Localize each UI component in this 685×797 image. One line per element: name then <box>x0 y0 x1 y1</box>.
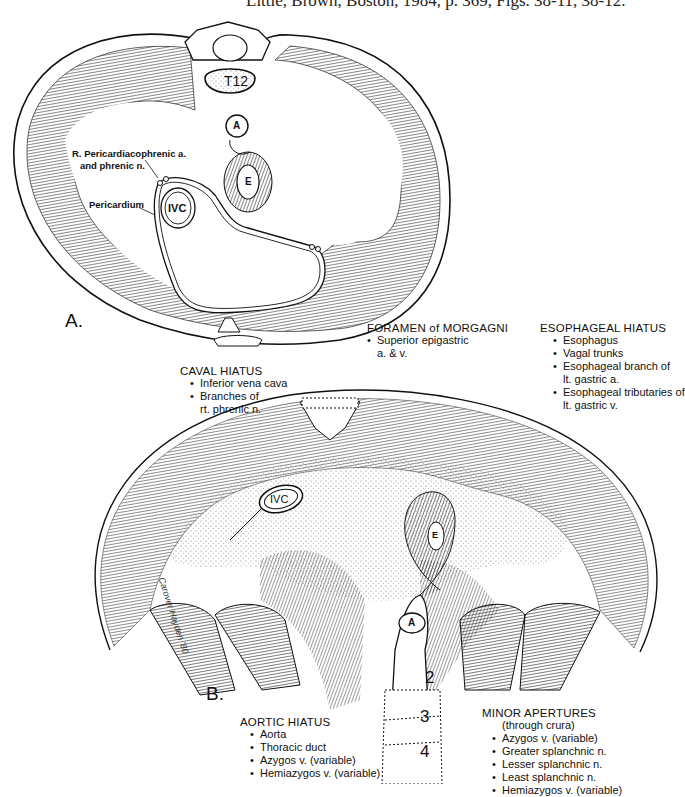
callout-item: Vagal trunks <box>553 347 685 360</box>
callout-heading: ESOPHAGEAL HIATUS <box>540 322 685 334</box>
callout-item: Azygos v. (variable) <box>250 754 380 767</box>
callout-caval-hiatus: CAVAL HIATUS Inferior vena cava Branches… <box>180 365 287 416</box>
callout-foramen-morgagni: FORAMEN of MORGAGNI Superior epigastric … <box>367 322 508 360</box>
callout-heading: CAVAL HIATUS <box>180 365 287 377</box>
figure-a-label: A. <box>65 310 83 332</box>
callout-item: Esophageal branch of <box>553 360 685 373</box>
pericardiacophrenic-label-line1: R. Pericardiacophrenic a. <box>72 148 186 160</box>
callout-item: Lesser splanchnic n. <box>492 758 622 771</box>
callout-minor-apertures: MINOR APERTURES (through crura) Azygos v… <box>482 707 622 797</box>
aorta-label-a: A <box>233 120 240 131</box>
callout-item: Aorta <box>250 728 380 741</box>
callout-item: Hemiazygos v. (variable) <box>492 784 622 797</box>
callout-item: Branches of <box>190 390 287 403</box>
callout-item: Superior epigastric <box>367 334 508 347</box>
callout-esophageal-hiatus: ESOPHAGEAL HIATUS Esophagus Vagal trunks… <box>553 322 685 412</box>
callout-subheading: (through crura) <box>482 719 622 732</box>
ivc-label-a: IVC <box>168 202 186 214</box>
callout-aortic-hiatus: AORTIC HIATUS Aorta Thoracic duct Azygos… <box>240 716 380 780</box>
ivc-label-b: IVC <box>270 493 288 505</box>
callout-item-continuation: rt. phrenic n. <box>190 403 287 416</box>
vertebra-2-label: 2 <box>425 668 434 688</box>
pericardium-label: Pericardium <box>89 199 144 211</box>
callout-item-continuation: lt. gastric v. <box>553 399 685 412</box>
callout-heading: MINOR APERTURES <box>482 707 622 719</box>
callout-item: Hemiazygos v. (variable) <box>250 767 380 780</box>
callout-item: Inferior vena cava <box>190 377 287 390</box>
callout-item: Thoracic duct <box>250 741 380 754</box>
callout-item: Greater splanchnic n. <box>492 745 622 758</box>
callout-item-continuation: a. & v. <box>367 347 508 360</box>
figure-b-label: B. <box>206 683 224 705</box>
callout-item: Azygos v. (variable) <box>492 732 622 745</box>
vertebra-t12-label: T12 <box>224 73 248 89</box>
callout-heading: FORAMEN of MORGAGNI <box>367 322 508 334</box>
callout-item: Esophagus <box>553 334 685 347</box>
vertebra-3-label: 3 <box>420 707 429 727</box>
esophagus-label-b: E <box>432 530 438 540</box>
callout-item: Least splanchnic n. <box>492 771 622 784</box>
callout-item-continuation: lt. gastric a. <box>553 373 685 386</box>
vertebra-4-label: 4 <box>420 742 429 762</box>
pericardiacophrenic-label-line2: and phrenic n. <box>80 160 145 172</box>
callout-item: Esophageal tributaries of <box>553 386 685 399</box>
figure-a-diagram <box>14 22 450 346</box>
callout-heading: AORTIC HIATUS <box>240 716 380 728</box>
aorta-label-b: A <box>408 617 415 628</box>
esophagus-label-a: E <box>245 176 252 187</box>
